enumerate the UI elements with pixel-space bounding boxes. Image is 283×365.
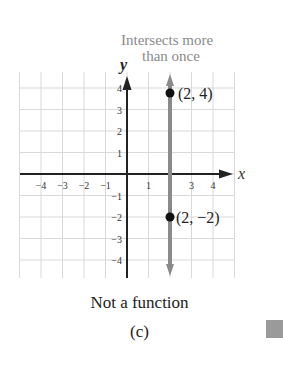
y-tick-label: −2 [111,212,122,223]
y-tick-label: −4 [111,255,122,266]
point-2-neg2 [166,213,175,222]
y-axis-arrow-icon [123,76,132,90]
side-marker [266,320,283,338]
point-top-label: (2, 4) [178,85,213,103]
figure-sublabel: (c) [0,322,281,342]
x-tick-label: 3 [189,180,194,191]
y-tick-label: −3 [111,234,122,245]
x-tick-label: −4 [36,180,47,191]
line-up-arrow-icon [166,74,174,86]
x-axis-label: x [237,165,245,182]
annotation-line-2: than once [142,49,200,64]
x-tick-label: −3 [57,180,68,191]
point-2-4 [166,89,175,98]
annotation-line-1: Intersects more [121,33,213,48]
y-axis-label: y [118,56,128,74]
y-tick-label: −1 [111,191,122,202]
x-tick-label: 4 [211,180,216,191]
y-tick-label: 4 [117,83,122,94]
y-tick-label: 1 [117,148,122,159]
x-tick-label: −1 [100,180,111,191]
axes [20,76,233,278]
x-tick-label: −2 [79,180,90,191]
figure-caption: Not a function [0,293,281,313]
line-down-arrow-icon [166,264,174,276]
point-bottom-label: (2, −2) [176,209,220,227]
x-axis-arrow-icon [219,170,233,179]
y-tick-label: 3 [117,105,122,116]
x-tick-label: 1 [146,180,151,191]
y-tick-label: 2 [117,126,122,137]
